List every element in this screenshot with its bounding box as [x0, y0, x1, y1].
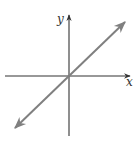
graph-svg: [0, 0, 136, 145]
y-axis-label: y: [57, 13, 64, 25]
coordinate-plane: y x: [0, 0, 136, 145]
x-axis-label: x: [126, 76, 133, 88]
line-y-equals-x: [15, 22, 125, 128]
